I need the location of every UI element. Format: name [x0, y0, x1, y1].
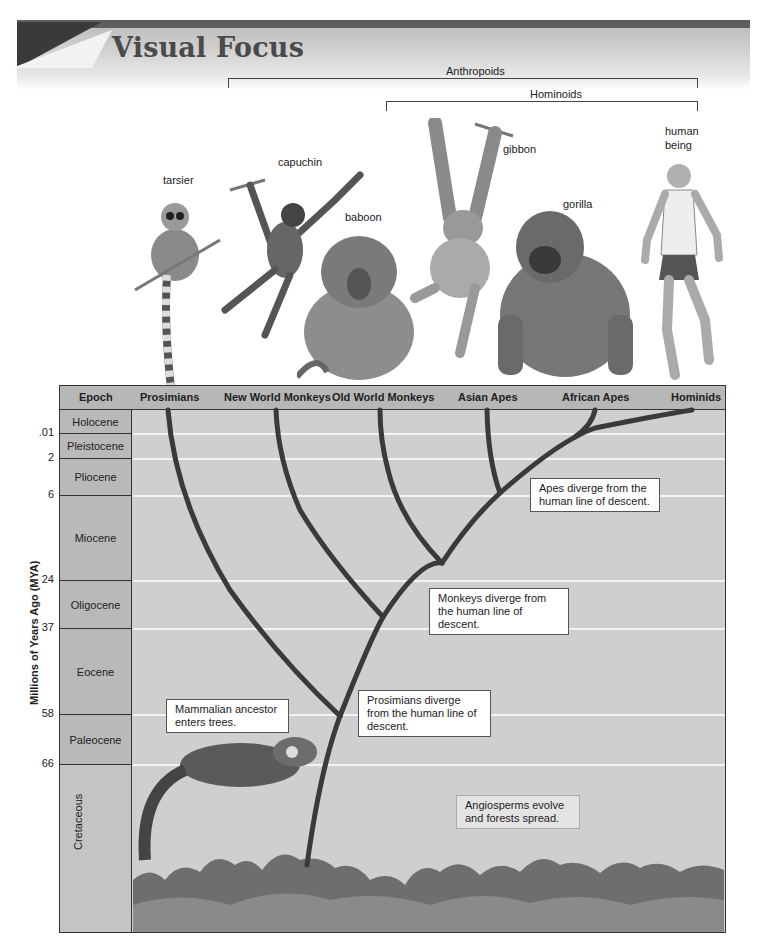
tree-shrew-ancestor-illustration [145, 737, 318, 860]
note-apes-diverge: Apes diverge from the human line of desc… [530, 478, 660, 512]
note-angiosperms: Angiosperms evolve and forests spread. [456, 795, 580, 829]
note-mammalian-ancestor: Mammalian ancestor enters trees. [166, 699, 289, 733]
note-monkeys-diverge: Monkeys diverge from the human line of d… [429, 588, 569, 635]
phylogenetic-tree [0, 0, 758, 948]
forest-canopy-illustration [133, 854, 724, 932]
note-prosimians-diverge: Prosimians diverge from the human line o… [358, 690, 491, 737]
